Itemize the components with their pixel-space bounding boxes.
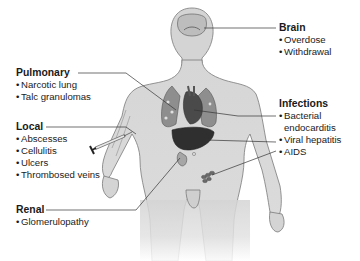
label-local-item: •Thrombosed veins: [16, 169, 100, 181]
right-hand: [269, 212, 284, 232]
label-local-title: Local: [16, 120, 100, 133]
label-infections-title: Infections: [279, 97, 341, 110]
label-pulmonary-item: •Narcotic lung: [16, 79, 91, 91]
item-text: AIDS: [284, 146, 306, 157]
label-pulmonary-item: •Talc granulomas: [16, 91, 91, 103]
label-local-item: •Ulcers: [16, 157, 100, 169]
item-text: Bacterial: [284, 110, 321, 121]
item-text: Withdrawal: [284, 46, 331, 57]
label-brain-item: •Withdrawal: [279, 46, 331, 58]
label-local-item: •Cellulitis: [16, 145, 100, 157]
item-text: Abscesses: [21, 133, 67, 144]
item-text: endocarditis: [284, 122, 336, 133]
label-brain: Brain •Overdose •Withdrawal: [279, 21, 331, 58]
label-infections-item: •AIDS: [279, 146, 341, 158]
label-renal-title: Renal: [16, 203, 89, 216]
item-text: Narcotic lung: [21, 79, 77, 90]
label-brain-item: •Overdose: [279, 34, 331, 46]
label-renal: Renal •Glomerulopathy: [16, 203, 89, 228]
item-text: Overdose: [284, 34, 326, 45]
item-text: Glomerulopathy: [21, 216, 89, 227]
label-local-item: •Abscesses: [16, 133, 100, 145]
item-text: Talc granulomas: [21, 91, 91, 102]
label-pulmonary: Pulmonary •Narcotic lung •Talc granuloma…: [16, 66, 91, 103]
left-hand: [102, 176, 118, 198]
label-local: Local •Abscesses •Cellulitis •Ulcers •Th…: [16, 120, 100, 181]
brain-organ: [178, 14, 207, 36]
item-text: Viral hepatitis: [284, 134, 341, 145]
label-renal-item: •Glomerulopathy: [16, 216, 89, 228]
label-infections-item: •Viral hepatitis: [279, 134, 341, 146]
item-text: Thrombosed veins: [21, 169, 100, 180]
label-infections: Infections •Bacterial endocarditis •Vira…: [279, 97, 341, 158]
label-brain-title: Brain: [279, 21, 331, 34]
item-text: Ulcers: [21, 157, 48, 168]
diagram-canvas: Brain •Overdose •Withdrawal Pulmonary •N…: [0, 0, 360, 261]
label-infections-item: •Bacterial: [279, 110, 341, 122]
label-infections-item-continuation: endocarditis: [279, 122, 341, 134]
item-text: Cellulitis: [21, 145, 57, 156]
label-pulmonary-title: Pulmonary: [16, 66, 91, 79]
